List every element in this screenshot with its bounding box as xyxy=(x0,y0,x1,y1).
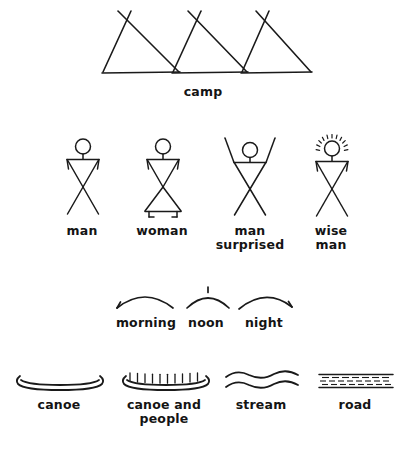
label-woman: woman xyxy=(136,224,188,238)
stream-icon xyxy=(224,370,300,394)
label-canoe-and-people: canoe and people xyxy=(127,398,201,426)
teepee-icon xyxy=(238,4,338,80)
canoe-with-people-icon xyxy=(120,370,212,396)
noon-arc-icon xyxy=(183,286,233,314)
label-canoe: canoe xyxy=(38,398,81,412)
night-arc-icon xyxy=(236,288,296,314)
road-icon xyxy=(318,372,394,392)
label-man-surprised: man surprised xyxy=(216,224,285,252)
label-noon: noon xyxy=(188,316,224,330)
label-wise-man: wise man xyxy=(315,224,348,252)
stick-figure-woman-icon xyxy=(137,136,189,222)
label-road: road xyxy=(339,398,372,412)
morning-arc-icon xyxy=(113,288,177,314)
label-camp: camp xyxy=(184,85,223,99)
label-man: man xyxy=(67,224,98,238)
label-stream: stream xyxy=(236,398,287,412)
stick-figure-wise-man-icon xyxy=(306,132,358,224)
label-morning: morning xyxy=(116,316,176,330)
canoe-icon xyxy=(14,374,106,396)
symbol-chart-sheet: camp man xyxy=(0,0,406,452)
stick-figure-man-icon xyxy=(57,136,109,222)
stick-figure-man-surprised-icon xyxy=(222,136,278,222)
label-night: night xyxy=(245,316,283,330)
